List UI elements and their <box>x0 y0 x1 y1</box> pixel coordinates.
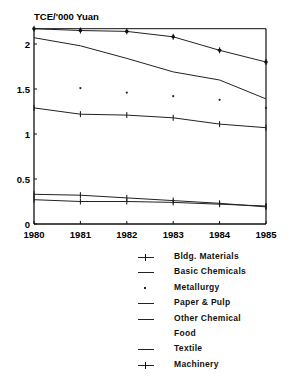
legend-label: Other Chemical <box>174 313 241 323</box>
legend-label: Paper & Pulp <box>174 297 231 307</box>
y-tick-label: 2 <box>25 39 30 50</box>
legend-item: Food <box>168 327 291 342</box>
legend-swatch-icon <box>138 319 154 320</box>
line-chart: 00.511.52198019811982198319841985 TCE/'0… <box>0 0 291 250</box>
legend-label: Textile <box>174 343 202 353</box>
legend-swatch-icon <box>144 287 146 289</box>
chart-axes: 00.511.52198019811982198319841985 <box>17 29 277 240</box>
y-tick-label: 0 <box>25 219 30 230</box>
y-tick-label: 1 <box>25 129 31 140</box>
x-tick-label: 1980 <box>23 229 44 240</box>
legend-swatch-icon <box>138 349 154 350</box>
series-bldg-materials <box>32 26 268 65</box>
legend-item: Basic Chemicals <box>168 265 291 280</box>
series-textile <box>34 197 266 209</box>
legend-item: Metallurgy <box>168 281 291 296</box>
x-tick-label: 1981 <box>70 229 92 240</box>
y-axis-label: TCE/'000 Yuan <box>34 11 99 22</box>
legend-swatch-icon <box>138 365 154 366</box>
legend-swatch-icon <box>138 303 154 304</box>
x-tick-label: 1982 <box>116 229 137 240</box>
legend-swatch-icon <box>138 257 154 258</box>
legend-label: Bldg. Materials <box>174 251 239 261</box>
legend-item: Bldg. Materials <box>168 250 291 265</box>
chart-series <box>32 26 268 210</box>
legend-item: Textile <box>168 342 291 357</box>
legend-label: Metallurgy <box>174 282 220 292</box>
x-tick-label: 1983 <box>163 229 184 240</box>
legend-item: Other Chemical <box>168 312 291 327</box>
legend-label: Food <box>174 328 196 338</box>
legend-swatch-icon <box>138 272 154 273</box>
chart-legend: Bldg. MaterialsBasic ChemicalsMetallurgy… <box>168 250 291 373</box>
legend-label: Basic Chemicals <box>174 266 246 276</box>
x-tick-label: 1985 <box>255 229 277 240</box>
y-tick-label: 1.5 <box>17 84 31 95</box>
y-tick-label: 0.5 <box>17 174 31 185</box>
legend-item: Machinery <box>168 358 291 373</box>
legend-label: Machinery <box>174 359 219 369</box>
x-tick-label: 1984 <box>209 229 231 240</box>
series-metallurgy <box>79 87 267 109</box>
series-basic-chemicals <box>34 38 266 99</box>
legend-item: Paper & Pulp <box>168 296 291 311</box>
series-paper-pulp <box>34 105 266 131</box>
